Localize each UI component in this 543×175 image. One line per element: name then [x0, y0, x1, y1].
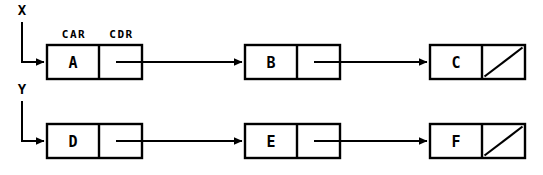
list-row: YDEF — [18, 81, 525, 158]
car-value-label: A — [68, 54, 77, 72]
cons-cell: ACARCDR — [47, 28, 242, 79]
cons-cell: D — [47, 124, 242, 158]
list-row: XACARCDRBC — [18, 2, 525, 79]
car-value-label: C — [451, 54, 460, 72]
car-value-label: E — [266, 133, 275, 151]
cons-cell: C — [430, 45, 525, 79]
cons-cell: B — [245, 45, 427, 79]
root-label: X — [18, 2, 27, 18]
cdr-slot-label: CDR — [109, 28, 134, 41]
root-pointer-y: Y — [18, 81, 44, 141]
cons-cell: E — [245, 124, 427, 158]
cons-cell-outline — [430, 45, 525, 79]
root-pointer-arrow — [22, 22, 44, 62]
cons-cell-diagram: XACARCDRBCYDEF — [0, 0, 543, 175]
diagram-canvas: XACARCDRBCYDEF — [0, 0, 543, 175]
root-pointer-arrow — [22, 101, 44, 141]
root-label: Y — [18, 81, 27, 97]
car-value-label: D — [68, 133, 77, 151]
cons-cell: F — [430, 124, 525, 158]
cons-cell-outline — [430, 124, 525, 158]
car-value-label: B — [266, 54, 275, 72]
car-value-label: F — [451, 133, 460, 151]
car-slot-label: CAR — [62, 28, 87, 41]
root-pointer-x: X — [18, 2, 44, 62]
